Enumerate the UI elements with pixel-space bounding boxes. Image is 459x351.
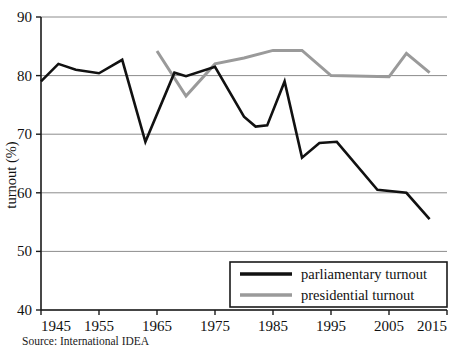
x-tick-label-1945: 1945 bbox=[41, 318, 71, 334]
y-axis-title: turnout (%) bbox=[3, 141, 20, 208]
y-tick-label-40: 40 bbox=[17, 302, 32, 318]
chart-canvas: 908070605040 194519551965197519851995200… bbox=[0, 0, 459, 351]
x-tick-label-1985: 1985 bbox=[258, 318, 288, 334]
y-tick-label-60: 60 bbox=[17, 185, 32, 201]
legend-box: parliamentary turnout presidential turno… bbox=[230, 262, 447, 307]
x-tick-label-2005: 2005 bbox=[374, 318, 404, 334]
source-note: Source: International IDEA bbox=[22, 335, 150, 347]
x-tick-label-1965: 1965 bbox=[142, 318, 172, 334]
y-tick-label-90: 90 bbox=[17, 9, 32, 25]
y-tick-label-70: 70 bbox=[17, 126, 32, 142]
x-tick-label-1955: 1955 bbox=[84, 318, 114, 334]
x-tick-label-1975: 1975 bbox=[200, 318, 230, 334]
x-tick-label-2015: 2015 bbox=[417, 318, 447, 334]
legend-label-parliamentary: parliamentary turnout bbox=[301, 266, 427, 282]
x-tick-label-1995: 1995 bbox=[316, 318, 346, 334]
turnout-line-chart: 908070605040 194519551965197519851995200… bbox=[0, 0, 459, 351]
legend-label-presidential: presidential turnout bbox=[301, 287, 414, 303]
y-tick-label-80: 80 bbox=[17, 68, 32, 84]
y-tick-label-50: 50 bbox=[17, 243, 32, 259]
